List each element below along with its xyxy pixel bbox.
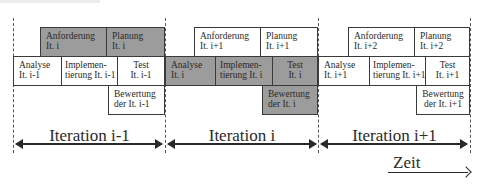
box-subtitle: tierung It. i+1	[373, 70, 425, 80]
box-title: Anforderung	[46, 31, 106, 41]
analyse-box: Analyse It. i+1	[318, 56, 370, 86]
box-title: Anforderung	[354, 31, 414, 41]
box-subtitle: It. i+1	[324, 70, 369, 80]
box-subtitle: It. i+2	[354, 41, 414, 51]
box-title: Test	[273, 60, 317, 70]
box-subtitle: It. i	[273, 70, 317, 80]
box-title: Bewertung	[417, 89, 469, 99]
analyse-box: Analyse It. i-1	[13, 56, 62, 86]
iteration-span-arrow	[321, 143, 467, 145]
test-box: Test It. i+1	[425, 56, 470, 86]
box-subtitle: der It. i+1	[417, 99, 469, 109]
iteration-span-arrow	[16, 143, 162, 145]
box-title: Implemen-	[220, 60, 272, 70]
planung-box: Planung It. i+1	[260, 27, 318, 57]
test-box: Test It. i	[272, 56, 318, 86]
time-axis-label: Zeit	[393, 153, 420, 173]
box-title: Bewertung	[268, 89, 317, 99]
box-subtitle: It. i	[112, 41, 164, 51]
iteration-boundary-line	[470, 18, 471, 153]
box-title: Implemen-	[65, 60, 117, 70]
top-edge-artifact	[0, 0, 100, 3]
box-subtitle: It. i+1	[266, 41, 317, 51]
implementierung-box: Implemen- tierung It. i-1	[61, 56, 118, 86]
implementierung-box: Implemen- tierung It. i+1	[369, 56, 426, 86]
test-box: Test It. i-1	[117, 56, 165, 86]
box-subtitle: It. i-1	[118, 70, 164, 80]
anforderung-box: Anforderung It. i+1	[194, 27, 261, 57]
box-subtitle: der It. i	[268, 99, 317, 109]
anforderung-box: Anforderung It. i+2	[348, 27, 415, 57]
bewertung-box: Bewertung der It. i-1	[108, 85, 165, 115]
box-subtitle: It. i+1	[426, 70, 469, 80]
box-title: Test	[426, 60, 469, 70]
box-subtitle: tierung It. i	[220, 70, 272, 80]
time-arrow-icon	[388, 172, 468, 173]
planung-box: Planung It. i	[106, 27, 165, 57]
box-subtitle: It. i	[171, 70, 215, 80]
bewertung-box: Bewertung der It. i+1	[416, 85, 470, 115]
analyse-box: Analyse It. i	[165, 56, 216, 86]
anforderung-box: Anforderung It. i	[40, 27, 107, 57]
box-title: Analyse	[324, 60, 369, 70]
box-subtitle: der It. i-1	[114, 99, 164, 109]
iteration-span-arrow	[168, 143, 316, 145]
box-title: Test	[118, 60, 164, 70]
box-title: Planung	[112, 31, 164, 41]
box-title: Analyse	[171, 60, 215, 70]
box-title: Anforderung	[200, 31, 260, 41]
box-subtitle: It. i+1	[200, 41, 260, 51]
box-title: Planung	[420, 31, 469, 41]
implementierung-box: Implemen- tierung It. i	[215, 56, 273, 86]
bewertung-box: Bewertung der It. i	[262, 85, 318, 115]
box-subtitle: It. i	[46, 41, 106, 51]
box-title: Planung	[266, 31, 317, 41]
box-title: Bewertung	[114, 89, 164, 99]
planung-box: Planung It. i+2	[414, 27, 470, 57]
box-subtitle: tierung It. i-1	[65, 70, 117, 80]
box-title: Implemen-	[373, 60, 425, 70]
box-subtitle: It. i-1	[19, 70, 61, 80]
box-title: Analyse	[19, 60, 61, 70]
box-subtitle: It. i+2	[420, 41, 469, 51]
